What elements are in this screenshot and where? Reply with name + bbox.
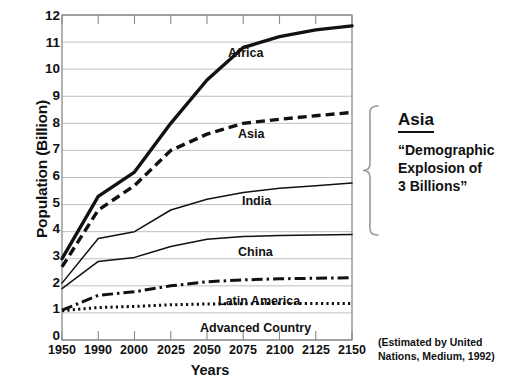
- series-label-africa: Africa: [228, 47, 263, 60]
- asia-callout: Asia “Demographic Explosion of 3 Billion…: [398, 110, 522, 196]
- series-lines: [62, 26, 352, 311]
- series-label-asia: Asia: [238, 128, 264, 141]
- series-label-latin-america: Latin America: [218, 295, 300, 308]
- callout-body-line-1: “Demographic: [398, 142, 522, 160]
- x-axis-title: Years: [150, 362, 270, 378]
- gridlines: [62, 15, 352, 340]
- footnote-line-2: Nations, Medium, 1992): [378, 350, 522, 364]
- series-line-latin-america: [62, 278, 352, 311]
- series-label-china: China: [238, 246, 273, 259]
- callout-body: “Demographic Explosion of 3 Billions”: [398, 142, 522, 196]
- footnote-line-1: (Estimated by United: [378, 336, 522, 350]
- series-label-india: India: [242, 195, 271, 208]
- callout-title: Asia: [398, 110, 434, 133]
- series-line-china: [62, 234, 352, 288]
- callout-body-line-2: Explosion of: [398, 160, 522, 178]
- asia-brace: [363, 106, 378, 235]
- series-line-africa: [62, 26, 352, 259]
- series-line-advanced-country: [62, 303, 352, 310]
- callout-body-line-3: 3 Billions”: [398, 178, 522, 196]
- source-footnote: (Estimated by United Nations, Medium, 19…: [378, 336, 522, 363]
- x-tick-2150: 2150: [329, 344, 375, 357]
- chart-figure: Population (Billion) 12 11 10 9 8 7 6 5 …: [0, 0, 522, 392]
- series-line-india: [62, 183, 352, 283]
- series-label-advanced-country: Advanced Country: [200, 322, 311, 335]
